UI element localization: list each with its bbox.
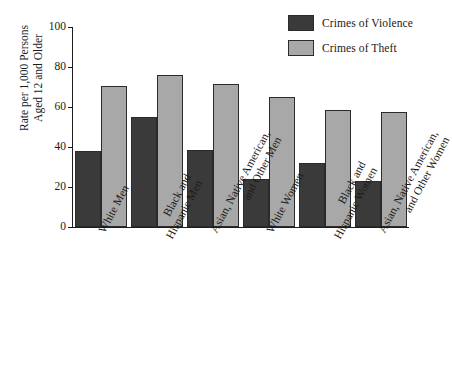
y-axis-title: Rate per 1,000 Persons Aged 12 and Older (17, 3, 45, 153)
y-axis-tick (68, 227, 73, 228)
y-axis-title-line-2: Aged 12 and Older (31, 3, 45, 153)
y-axis-tick (68, 187, 73, 188)
y-axis-tick-label: 20 (55, 181, 67, 193)
y-axis-tick (68, 67, 73, 68)
bar (299, 163, 325, 227)
y-axis-title-line-1: Rate per 1,000 Persons (17, 3, 31, 153)
y-axis-tick-label: 80 (55, 61, 67, 73)
y-axis-tick-label: 60 (55, 101, 67, 113)
y-axis-tick-label: 0 (60, 221, 66, 233)
y-axis-tick (68, 27, 73, 28)
y-axis-tick (68, 147, 73, 148)
y-axis-tick-label: 40 (55, 141, 67, 153)
y-axis-tick-label: 100 (49, 21, 66, 33)
x-axis-category-labels: White MenBlack andHispanic MenAsian, Nat… (72, 229, 408, 379)
bar (131, 117, 157, 227)
y-axis-tick (68, 107, 73, 108)
bar (75, 151, 101, 227)
